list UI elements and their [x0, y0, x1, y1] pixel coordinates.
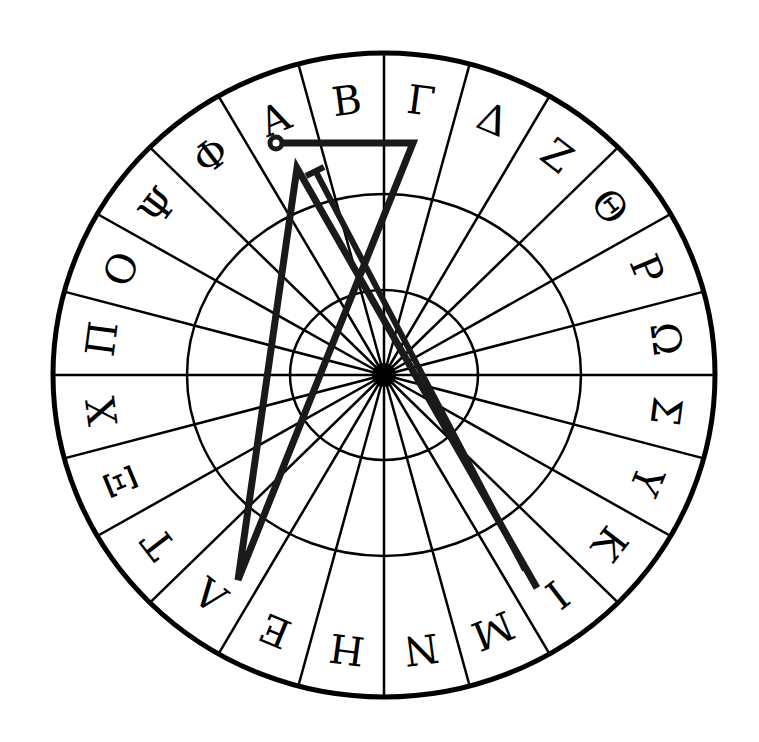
sector-letter: Γ — [404, 76, 438, 125]
sector-spoke — [384, 214, 671, 375]
sector-letter: Δ — [471, 92, 515, 146]
sector-spoke — [384, 375, 618, 603]
sector-letter: Ι — [537, 572, 578, 618]
sector-letter: Ο — [93, 245, 148, 293]
sector-spoke — [150, 375, 384, 603]
sector-spoke — [384, 147, 618, 375]
sector-letter: Μ — [465, 602, 520, 660]
sector-letter: Φ — [184, 127, 238, 183]
sector-letter: Χ — [77, 394, 126, 429]
sector-letter: Ζ — [532, 129, 582, 182]
sector-letter: Ψ — [129, 179, 187, 235]
center-hub — [372, 363, 396, 387]
greek-letter-wheel: ΑΒΓΔΖΘΡΩΣΥΚΙΜΝΗΕΛΤΞΧΠΟΨΦ — [0, 0, 759, 742]
sector-letter: Ν — [401, 624, 442, 674]
sector-letter: Λ — [184, 567, 237, 622]
sigil-start-circle — [270, 137, 282, 149]
sector-letter: Υ — [620, 459, 673, 502]
sector-letter: Β — [329, 76, 364, 125]
sector-letter: Τ — [132, 519, 185, 568]
sector-letter: Θ — [582, 179, 638, 233]
sector-letter: Ω — [641, 319, 691, 358]
sector-letter: Σ — [642, 394, 691, 428]
sigil-t-bar — [306, 167, 324, 176]
sector-letter: Π — [77, 319, 127, 360]
sector-letter: Ξ — [94, 459, 147, 503]
sector-letter: Η — [327, 624, 368, 674]
sector-spoke — [97, 375, 384, 536]
sector-letter: Κ — [582, 518, 637, 571]
sector-letter: Ε — [253, 604, 298, 658]
sector-letter: Ρ — [621, 248, 674, 290]
